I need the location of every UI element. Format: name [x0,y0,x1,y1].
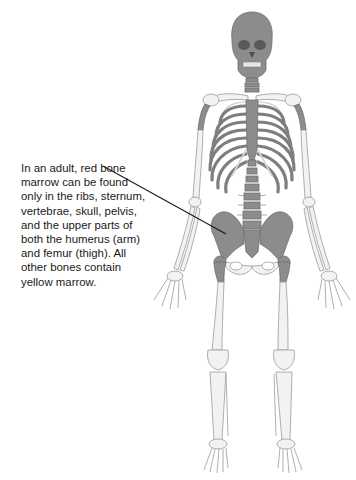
callout-text: In an adult, red bone marrow can be foun… [21,161,146,289]
skull [232,12,273,78]
cervical-vertebrae [245,78,259,92]
cropped-caption [16,472,256,480]
right-arm [294,104,350,309]
left-arm [154,104,210,309]
sternum [246,100,258,160]
left-leg [204,256,229,473]
right-leg [273,256,302,473]
vertebral-column [237,160,267,229]
